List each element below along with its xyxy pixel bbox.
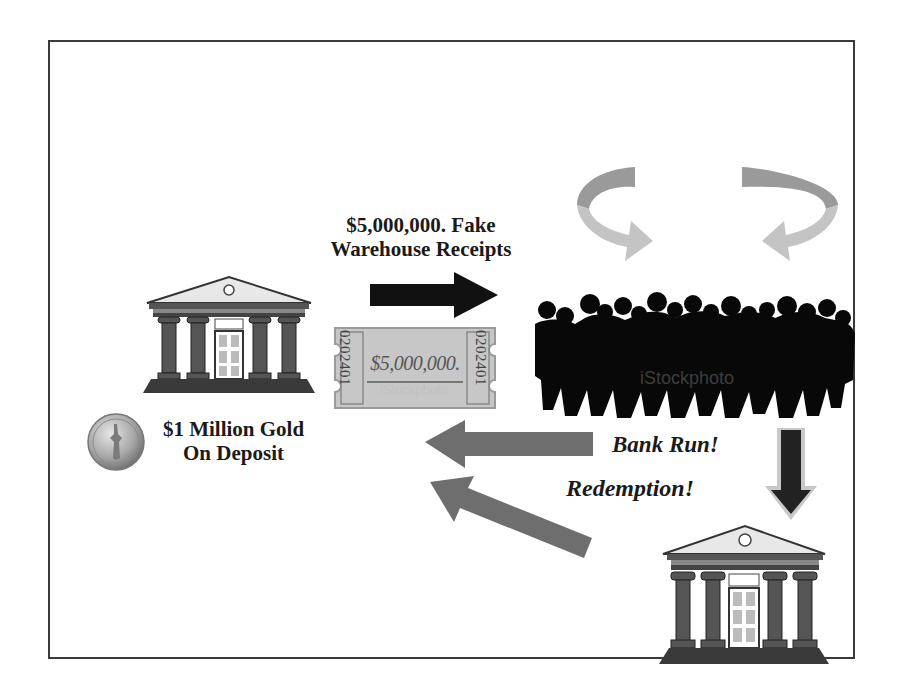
gold-label-line1: $1 Million Gold	[146, 417, 321, 441]
redemption-label: Redemption!	[566, 475, 746, 503]
fake-receipts-line1: $5,000,000. Fake	[296, 213, 546, 237]
curved-arrow-left-icon	[575, 165, 675, 275]
ticket-watermark: iStockphoto	[380, 382, 448, 397]
fake-receipts-label: $5,000,000. Fake Warehouse Receipts	[296, 213, 546, 261]
ticket-amount: $5,000,000.	[356, 352, 474, 375]
arrow-down-icon	[765, 428, 817, 520]
crowd-silhouette-icon	[535, 280, 855, 420]
crowd-watermark: iStockphoto	[640, 368, 734, 389]
arrow-left-bank-run-icon	[425, 420, 595, 470]
fake-receipts-line2: Warehouse Receipts	[296, 237, 546, 261]
ticket-serial-right: 0202401	[472, 330, 489, 386]
bank-run-label: Bank Run!	[612, 432, 772, 458]
ticket-serial-left: 0202401	[336, 330, 353, 386]
bank-right-icon	[659, 524, 829, 664]
bank-left-icon	[143, 275, 315, 395]
gold-deposit-label: $1 Million Gold On Deposit	[146, 417, 321, 465]
arrow-right-icon	[370, 272, 500, 318]
gold-coin-icon	[86, 412, 146, 472]
gold-label-line2: On Deposit	[146, 441, 321, 465]
curved-arrow-right-icon	[740, 165, 840, 275]
